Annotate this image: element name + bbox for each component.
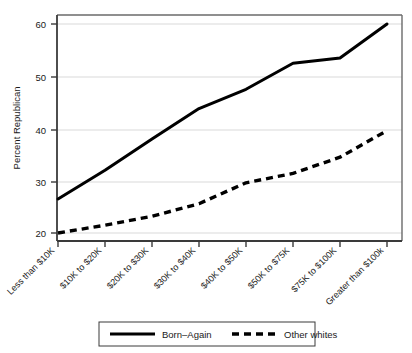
y-tick-label-40: 40 xyxy=(35,125,46,136)
y-tick-label-50: 50 xyxy=(35,72,46,83)
chart-figure: 60 50 40 30 20 Percent Republican Less t… xyxy=(0,0,412,353)
legend-label-other-whites: Other whites xyxy=(284,329,338,340)
chart-background xyxy=(0,0,412,353)
y-axis-title: Percent Republican xyxy=(11,87,22,170)
chart-legend: Born–Again Other whites xyxy=(99,322,338,346)
y-tick-label-30: 30 xyxy=(35,177,46,188)
y-tick-label-60: 60 xyxy=(35,19,46,30)
percent-republican-by-income-line-chart: 60 50 40 30 20 Percent Republican Less t… xyxy=(0,0,412,353)
legend-label-born-again: Born–Again xyxy=(162,329,212,340)
y-tick-label-20: 20 xyxy=(35,228,46,239)
